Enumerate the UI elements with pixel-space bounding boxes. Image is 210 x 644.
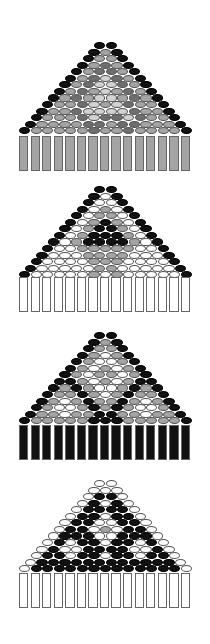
bead — [135, 565, 146, 572]
fringe-strand — [123, 136, 132, 171]
fringe-strand — [135, 136, 144, 171]
bead — [19, 417, 30, 424]
fringe-strand — [123, 425, 132, 460]
bead — [146, 565, 157, 572]
bead — [100, 539, 111, 546]
fringe-strand — [146, 277, 155, 312]
fringe-strand — [19, 277, 28, 312]
fringe-strand — [31, 425, 40, 460]
bead — [77, 417, 88, 424]
bead — [77, 101, 88, 108]
bead — [54, 565, 65, 572]
bead — [65, 565, 76, 572]
bead — [88, 417, 99, 424]
fringe-strand — [65, 573, 74, 608]
fringe-strand — [31, 573, 40, 608]
bead — [169, 127, 180, 134]
fringe-strand — [65, 136, 74, 171]
fringe-strand — [169, 136, 178, 171]
fringe-strand — [54, 277, 63, 312]
fringe-strand — [135, 425, 144, 460]
fringe-strand — [158, 136, 167, 171]
bead — [123, 565, 134, 572]
bead — [100, 417, 111, 424]
bead — [158, 417, 169, 424]
bead — [169, 565, 180, 572]
bead — [135, 127, 146, 134]
fringe-strand — [146, 573, 155, 608]
bead — [100, 101, 111, 108]
bead — [77, 565, 88, 572]
bead — [123, 127, 134, 134]
fringe-strand — [77, 573, 86, 608]
fringe-strand — [42, 573, 51, 608]
fringe-strand — [88, 573, 97, 608]
fringe-strand — [19, 425, 28, 460]
bead — [123, 539, 134, 546]
fringe-strand — [100, 573, 109, 608]
fringe-strand — [100, 277, 109, 312]
fringe-strand — [135, 573, 144, 608]
bead — [65, 417, 76, 424]
bead — [181, 127, 192, 134]
fringe-strand — [158, 573, 167, 608]
fringe-strand — [77, 136, 86, 171]
fringe-strand — [123, 573, 132, 608]
fringe-strand — [135, 277, 144, 312]
fringe-strand — [146, 136, 155, 171]
fringe-strand — [42, 425, 51, 460]
bead — [31, 127, 42, 134]
bead — [123, 245, 134, 252]
fringe-strand — [158, 425, 167, 460]
bead — [88, 565, 99, 572]
fringe-strand — [42, 277, 51, 312]
fringe-strand — [88, 425, 97, 460]
bead — [42, 417, 53, 424]
fringe-strand — [111, 425, 120, 460]
bead — [111, 127, 122, 134]
fringe-strand — [54, 425, 63, 460]
bead — [77, 127, 88, 134]
bead — [158, 127, 169, 134]
fringe-strand — [88, 277, 97, 312]
fringe-strand — [158, 277, 167, 312]
fringe-strand — [181, 136, 190, 171]
fringe-strand — [88, 136, 97, 171]
bead — [77, 245, 88, 252]
bead — [31, 565, 42, 572]
fringe-strand — [65, 277, 74, 312]
fringe-strand — [54, 573, 63, 608]
bead — [88, 127, 99, 134]
bead — [158, 565, 169, 572]
fringe-strand — [77, 277, 86, 312]
fringe-strand — [100, 425, 109, 460]
bead — [42, 565, 53, 572]
bead — [169, 417, 180, 424]
bead — [111, 565, 122, 572]
bead — [54, 417, 65, 424]
fringe-strand — [100, 136, 109, 171]
fringe-strand — [42, 136, 51, 171]
fringe-strand — [181, 425, 190, 460]
bead — [123, 417, 134, 424]
fringe-strand — [19, 573, 28, 608]
fringe-strand — [169, 573, 178, 608]
fringe-strand — [31, 136, 40, 171]
bead — [181, 565, 192, 572]
bead — [19, 565, 30, 572]
bead — [77, 539, 88, 546]
bead — [19, 127, 30, 134]
bead — [111, 417, 122, 424]
bead — [54, 127, 65, 134]
fringe-strand — [54, 136, 63, 171]
bead — [135, 417, 146, 424]
bead — [100, 245, 111, 252]
fringe-strand — [111, 136, 120, 171]
bead — [123, 391, 134, 398]
bead — [181, 417, 192, 424]
bead — [100, 565, 111, 572]
fringe-strand — [111, 573, 120, 608]
fringe-strand — [181, 573, 190, 608]
bead — [42, 127, 53, 134]
fringe-strand — [123, 277, 132, 312]
